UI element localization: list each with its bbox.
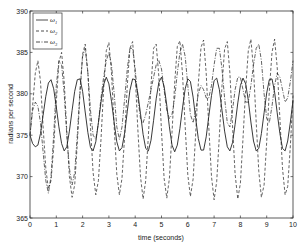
- y-axis-label: radians per second: [7, 84, 15, 144]
- legend: ω1ω2ω3: [33, 13, 62, 49]
- x-tick-label: 7: [212, 221, 216, 228]
- x-tick-label: 8: [238, 221, 242, 228]
- y-tick-label: 365: [16, 215, 28, 222]
- y-tick-label: 380: [16, 90, 28, 97]
- x-tick-label: 2: [81, 221, 85, 228]
- y-tick-label: 385: [16, 49, 28, 56]
- line-chart: 012345678910365370375380385390 ω1ω2ω3 ti…: [0, 0, 308, 244]
- x-tick-label: 1: [54, 221, 58, 228]
- x-tick-label: 10: [289, 221, 297, 228]
- y-tick-label: 390: [16, 8, 28, 15]
- axes-frame: [30, 11, 293, 218]
- x-axis-label: time (seconds): [138, 234, 184, 242]
- series-1-line: [30, 77, 293, 152]
- x-tick-label: 0: [28, 221, 32, 228]
- x-tick-label: 5: [160, 221, 164, 228]
- x-tick-label: 3: [107, 221, 111, 228]
- x-tick-label: 6: [186, 221, 190, 228]
- x-tick-label: 9: [265, 221, 269, 228]
- x-tick-label: 4: [133, 221, 137, 228]
- y-tick-label: 375: [16, 132, 28, 139]
- series-layer: [30, 39, 293, 200]
- y-tick-label: 370: [16, 173, 28, 180]
